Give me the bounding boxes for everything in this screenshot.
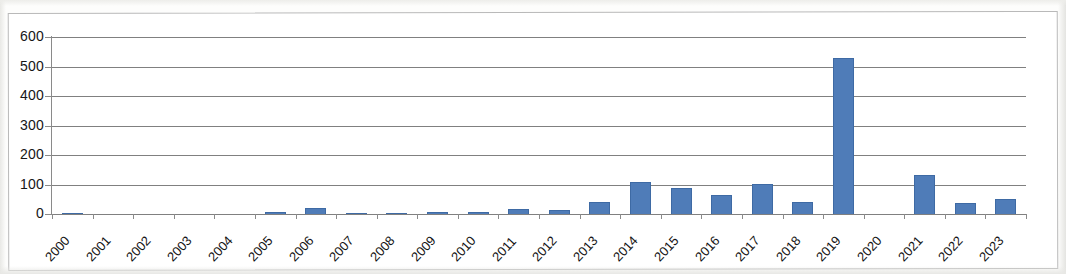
x-axis-label-2019: 2019	[813, 233, 844, 264]
x-tick-2009	[417, 214, 418, 219]
x-axis-label-2011: 2011	[489, 234, 519, 265]
x-tick-2018	[783, 214, 784, 219]
x-axis-label-2001: 2001	[83, 233, 114, 264]
y-axis-label-600: 600	[2, 28, 44, 44]
x-axis-label-2017: 2017	[732, 233, 763, 264]
x-tick-2003	[174, 214, 175, 219]
x-tick-2020	[864, 214, 865, 219]
y-tick-0	[45, 214, 52, 215]
bar-2008[interactable]	[386, 213, 407, 215]
x-tick-2006	[296, 214, 297, 219]
bar-2021[interactable]	[914, 175, 935, 214]
y-axis-label-100: 100	[2, 176, 44, 192]
x-tick-2021	[904, 214, 905, 219]
x-axis-label-2007: 2007	[326, 233, 357, 264]
bar-plot-area	[52, 37, 1026, 214]
bar-2005[interactable]	[265, 212, 286, 214]
x-tick-2000	[52, 214, 53, 219]
x-tick-2004	[214, 214, 215, 219]
x-tick-2012	[539, 214, 540, 219]
x-tick-2013	[580, 214, 581, 219]
x-tick-2019	[823, 214, 824, 219]
x-axis-label-2005: 2005	[245, 233, 276, 264]
bar-2007[interactable]	[346, 213, 367, 215]
y-axis-label-500: 500	[2, 58, 44, 74]
x-tick-2005	[255, 214, 256, 219]
x-tick-2010	[458, 214, 459, 219]
x-tick-2007	[336, 214, 337, 219]
x-axis-label-2022: 2022	[935, 233, 966, 264]
x-tick-2015	[661, 214, 662, 219]
y-tick-300	[45, 126, 52, 127]
bar-2010[interactable]	[468, 212, 489, 214]
x-axis-label-2006: 2006	[286, 233, 317, 264]
x-axis-label-2014: 2014	[610, 233, 641, 264]
bar-2013[interactable]	[589, 202, 610, 214]
x-tick-2022	[945, 214, 946, 219]
y-axis-label-0: 0	[2, 205, 44, 221]
x-axis-label-2016: 2016	[692, 233, 723, 264]
x-tick-2008	[377, 214, 378, 219]
y-tick-100	[45, 185, 52, 186]
x-tick-end	[1026, 214, 1027, 219]
x-axis-label-2018: 2018	[773, 233, 804, 264]
bar-2006[interactable]	[305, 208, 326, 214]
y-axis-label-400: 400	[2, 87, 44, 103]
x-tick-2017	[742, 214, 743, 219]
x-axis-label-2015: 2015	[651, 233, 682, 264]
x-axis-label-2012: 2012	[529, 233, 560, 264]
bar-2018[interactable]	[792, 202, 813, 214]
y-tick-200	[45, 155, 52, 156]
x-tick-2016	[701, 214, 702, 219]
x-axis-label-2004: 2004	[205, 233, 236, 264]
bar-2022[interactable]	[955, 203, 976, 214]
bar-2009[interactable]	[427, 212, 448, 214]
y-tick-600	[45, 37, 52, 38]
bar-2019[interactable]	[833, 58, 854, 214]
y-axis-label-300: 300	[2, 117, 44, 133]
x-axis-label-2023: 2023	[976, 233, 1007, 264]
y-tick-500	[45, 67, 52, 68]
bar-2023[interactable]	[995, 199, 1016, 214]
x-axis-label-2020: 2020	[854, 233, 885, 264]
bar-2016[interactable]	[711, 195, 732, 214]
y-axis-label-200: 200	[2, 146, 44, 162]
x-axis-label-2000: 2000	[42, 233, 73, 264]
bar-2011[interactable]	[508, 209, 529, 214]
x-axis-label-2002: 2002	[123, 233, 154, 264]
bar-2017[interactable]	[752, 184, 773, 214]
x-axis-label-2009: 2009	[408, 233, 439, 264]
y-tick-400	[45, 96, 52, 97]
bar-2014[interactable]	[630, 182, 651, 214]
x-axis-label-2008: 2008	[367, 233, 398, 264]
x-tick-2023	[985, 214, 986, 219]
x-axis-label-2003: 2003	[164, 233, 195, 264]
x-tick-2011	[498, 214, 499, 219]
x-tick-2001	[93, 214, 94, 219]
x-tick-2014	[620, 214, 621, 219]
bar-2012[interactable]	[549, 210, 570, 214]
chart-plot-container: 0100200300400500600 20002001200220032004…	[0, 0, 1066, 274]
x-tick-2002	[133, 214, 134, 219]
x-axis-label-2021: 2021	[895, 233, 926, 264]
x-axis-label-2010: 2010	[448, 233, 479, 264]
bar-2015[interactable]	[671, 188, 692, 214]
x-axis-label-2013: 2013	[570, 233, 601, 264]
bar-2000[interactable]	[62, 213, 83, 215]
